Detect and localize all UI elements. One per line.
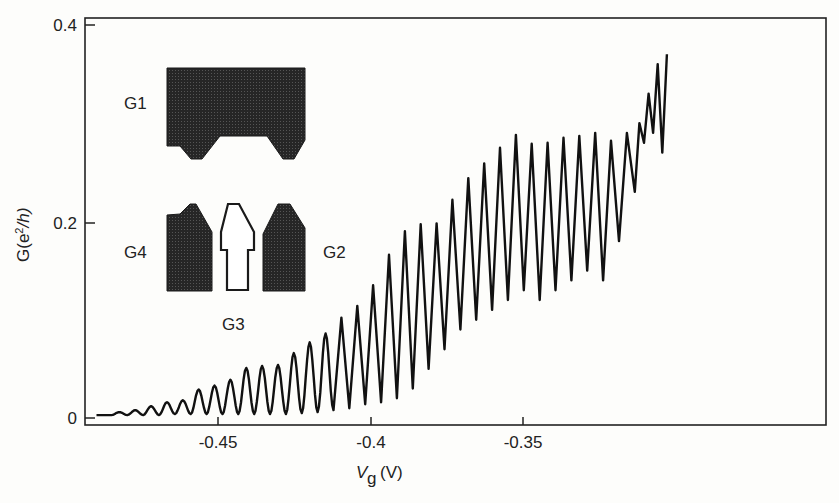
gate-label-g3: G3 — [222, 315, 245, 334]
x-axis: -0.45 -0.4 -0.35 — [199, 417, 543, 452]
x-axis-label: V g (V) — [356, 463, 403, 488]
svg-text:g: g — [367, 469, 376, 488]
gate-schematic-inset: G1 G4 G2 G3 — [124, 68, 346, 334]
y-axis: 0.4 0.2 0 — [53, 16, 95, 428]
gate-g3-shape — [221, 204, 254, 290]
y-tick-label: 0 — [68, 409, 77, 428]
gate-g2-shape — [263, 204, 305, 291]
svg-text:(V): (V) — [380, 463, 403, 482]
gate-g4-shape — [167, 204, 212, 291]
x-tick-label: -0.35 — [504, 433, 543, 452]
svg-text:G(e2/h): G(e2/h) — [13, 208, 33, 262]
chart-canvas: 0.4 0.2 0 -0.45 -0.4 -0.35 V g (V) G(e2/… — [0, 0, 839, 503]
gate-label-g2: G2 — [323, 243, 346, 262]
gate-label-g4: G4 — [124, 243, 147, 262]
x-tick-label: -0.4 — [356, 433, 385, 452]
x-tick-label: -0.45 — [199, 433, 238, 452]
y-tick-label: 0.4 — [53, 16, 77, 35]
y-tick-label: 0.2 — [53, 214, 77, 233]
gate-label-g1: G1 — [124, 94, 147, 113]
gate-g1-shape — [167, 68, 305, 159]
y-axis-label: G(e2/h) — [13, 208, 33, 262]
